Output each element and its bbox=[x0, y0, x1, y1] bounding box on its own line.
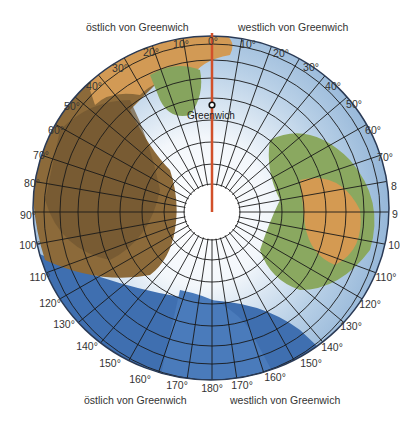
deg-w50: 50° bbox=[346, 98, 362, 110]
deg-w170: 170° bbox=[231, 379, 253, 391]
label-west-bottom: westlich von Greenwich bbox=[230, 394, 340, 406]
deg-w20: 20° bbox=[273, 47, 289, 59]
deg-e60: 60° bbox=[48, 124, 64, 136]
deg-w90: 9 bbox=[392, 208, 398, 220]
deg-e110: 110° bbox=[30, 271, 51, 283]
deg-180: 180° bbox=[201, 382, 223, 394]
deg-w30: 30° bbox=[303, 61, 319, 73]
deg-w140: 140° bbox=[321, 341, 343, 353]
deg-e70: 70° bbox=[33, 149, 49, 161]
deg-e50: 50° bbox=[64, 100, 80, 112]
deg-w150: 150° bbox=[300, 357, 322, 369]
greenwich-label: Greenwich bbox=[187, 110, 235, 121]
label-west-top: westlich von Greenwich bbox=[238, 21, 348, 33]
greenwich-marker-icon bbox=[209, 102, 215, 108]
deg-e80: 80° bbox=[24, 177, 40, 189]
deg-e90: 90° bbox=[20, 209, 36, 221]
deg-e10: 10° bbox=[173, 38, 189, 50]
deg-w160: 160° bbox=[264, 371, 286, 383]
deg-w40: 40° bbox=[325, 80, 341, 92]
deg-w120: 120° bbox=[359, 298, 381, 310]
label-east-top: östlich von Greenwich bbox=[86, 21, 189, 33]
deg-e130: 130° bbox=[53, 318, 75, 330]
deg-e170: 170° bbox=[166, 379, 188, 391]
deg-e150: 150° bbox=[99, 357, 121, 369]
deg-e30: 30° bbox=[112, 62, 128, 74]
deg-w70: 70° bbox=[377, 151, 393, 163]
deg-w60: 60° bbox=[365, 124, 381, 136]
deg-e140: 140° bbox=[76, 340, 98, 352]
deg-e40: 40° bbox=[86, 80, 102, 92]
deg-w100: 10 bbox=[388, 239, 400, 251]
deg-e160: 160° bbox=[129, 373, 151, 385]
deg-0: 0° bbox=[208, 35, 218, 47]
deg-w130: 130° bbox=[340, 320, 362, 332]
deg-e120: 120° bbox=[39, 297, 61, 309]
label-east-bottom: östlich von Greenwich bbox=[84, 394, 187, 406]
deg-e20: 20° bbox=[143, 46, 159, 58]
deg-w80: 8 bbox=[391, 180, 397, 192]
deg-w110: 110° bbox=[376, 271, 397, 283]
deg-w10: 10° bbox=[240, 38, 256, 50]
deg-e100: 100° bbox=[19, 239, 41, 251]
